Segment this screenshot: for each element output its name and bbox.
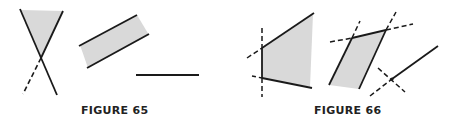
solid-ray [392,46,438,79]
shaded-trapezoid-region [247,13,314,97]
top-dashed-extension [247,48,262,58]
shaded-region [262,14,313,87]
ray-dashed-extension [370,79,392,96]
shaded-wedge [21,10,63,58]
parallelogram-fill [329,30,386,89]
ray-with-crossing-dashed-line [370,46,438,96]
parallel-lines-shaded-strip [79,15,149,68]
figure-65-caption: FIGURE 65 [81,104,148,117]
right-side-dashed [386,12,396,30]
top-dashed-right [386,24,413,30]
crossing-lines-with-shaded-wedge [20,9,63,95]
left-side-dashed [352,21,360,38]
shaded-strip [80,15,149,68]
figure-66-drawing [247,12,438,97]
top-dashed-left [330,38,352,42]
dashed-extension [23,58,41,94]
bottom-dashed-extension [252,76,262,78]
figure-65-drawing [20,9,199,95]
figures-canvas [0,0,453,125]
shaded-parallelogram [329,12,413,89]
intersection-point [390,77,393,80]
figure-66-caption: FIGURE 66 [314,104,381,117]
